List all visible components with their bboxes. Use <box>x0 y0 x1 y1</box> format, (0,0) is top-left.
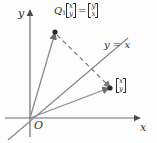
vector-to-source-point <box>30 88 109 118</box>
diagram-canvas <box>0 0 157 143</box>
source-vector-label: x y <box>116 78 126 93</box>
x-axis-label: x <box>140 122 146 133</box>
equals-sign: = <box>78 5 86 16</box>
equation-label: Q1 x y = y x <box>54 3 98 18</box>
source-vector-bracket: x y <box>116 78 126 93</box>
reflection-connector-dashed <box>57 35 110 87</box>
mirror-line-label: y = x <box>104 40 130 50</box>
vector-to-image-point <box>30 33 55 118</box>
origin-label: O <box>34 120 43 131</box>
source-point-dot <box>107 85 112 90</box>
input-vector-bracket: x y <box>66 3 76 18</box>
y-axis-label: y <box>18 8 24 19</box>
output-vector-bracket: y x <box>88 3 98 18</box>
reflection-diagram: Q1 x y = y x x y y = x y x <box>0 0 157 143</box>
operator-symbol: Q <box>54 5 62 16</box>
image-point-dot <box>52 29 57 34</box>
